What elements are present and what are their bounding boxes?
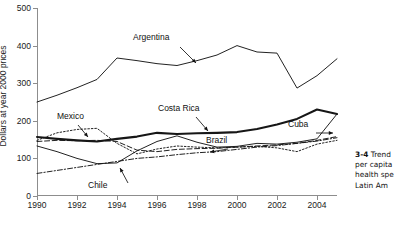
chart-figure: Dollars at year 2000 prices 010020030040…	[0, 0, 345, 232]
series-label-brazil: Brazil	[206, 136, 227, 146]
x-tick-label: 2000	[228, 201, 247, 210]
y-tick-label: 300	[17, 79, 31, 88]
x-tick-label: 1996	[148, 201, 167, 210]
annotation-arrowhead-brazil	[210, 149, 214, 153]
y-tick-label: 500	[17, 4, 31, 13]
y-tick-label: 100	[17, 154, 31, 163]
series-label-argentina: Argentina	[133, 33, 169, 43]
y-axis-title: Dollars at year 2000 prices	[0, 45, 8, 146]
y-tick-label: 200	[17, 117, 31, 126]
caption-line: health spe	[355, 170, 397, 180]
series-label-costa-rica: Costa Rica	[158, 104, 200, 114]
y-tick-label: 400	[17, 42, 31, 51]
x-tick-label: 1990	[28, 201, 47, 210]
series-label-chile: Chile	[88, 181, 107, 191]
annotation-arrows	[37, 8, 337, 196]
x-tick-label: 1992	[68, 201, 87, 210]
figure-panel: Dollars at year 2000 prices 010020030040…	[0, 0, 397, 232]
series-label-mexico: Mexico	[57, 112, 84, 122]
caption-line: Trend	[371, 150, 391, 159]
annotation-arrowhead-cuba	[329, 131, 333, 135]
series-label-cuba: Cuba	[288, 120, 308, 130]
caption-line: per capita	[355, 160, 397, 170]
x-tick-label: 2002	[268, 201, 287, 210]
caption-text: Trend	[371, 150, 391, 159]
caption-number: 3-4	[355, 150, 368, 159]
x-tick-label: 1998	[188, 201, 207, 210]
figure-caption: 3-4 Trend per capitahealth speLatin Am	[355, 150, 397, 191]
x-tick-label: 1994	[108, 201, 127, 210]
caption-line: Latin Am	[355, 181, 397, 191]
x-tick-label: 2004	[308, 201, 327, 210]
plot-area: 0100200300400500 19901992199419961998200…	[37, 8, 337, 196]
